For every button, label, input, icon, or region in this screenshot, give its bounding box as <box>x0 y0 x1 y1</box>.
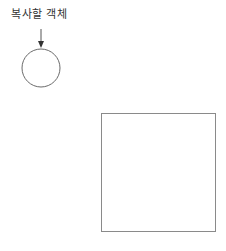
diagram-canvas: 복사할 객체 <box>0 0 226 251</box>
arrow-head-icon <box>38 41 44 48</box>
diagram-shapes <box>0 0 226 251</box>
target-square[interactable] <box>102 114 216 232</box>
source-circle[interactable] <box>22 49 60 87</box>
pointer-arrow <box>38 29 44 48</box>
